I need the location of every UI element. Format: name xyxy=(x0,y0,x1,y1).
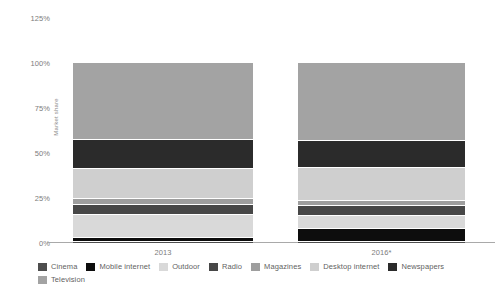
legend-item[interactable]: Radio xyxy=(209,262,242,271)
legend-item[interactable]: Cinema xyxy=(38,262,77,271)
bar-segment-newspapers[interactable] xyxy=(298,141,465,168)
y-axis-tick-label: 0% xyxy=(39,239,50,248)
bar-segment-newspapers[interactable] xyxy=(73,140,253,170)
legend-item[interactable]: Mobile internet xyxy=(86,262,150,271)
chart-container: Market share 0%25%50%75%100%125% 2013201… xyxy=(0,0,504,301)
legend-swatch-icon xyxy=(209,263,218,271)
bar-segment-outdoor[interactable] xyxy=(73,215,253,238)
legend-swatch-icon xyxy=(86,263,95,271)
bar-segment-television[interactable] xyxy=(73,63,253,140)
legend-item-label: Radio xyxy=(222,262,242,271)
y-axis-tick-label: 75% xyxy=(35,104,50,113)
plot-area: Market share 0%25%50%75%100%125% 2013201… xyxy=(55,18,495,243)
legend-item[interactable]: Desktop internet xyxy=(310,262,379,271)
legend-swatch-icon xyxy=(38,263,47,271)
bar-segment-television[interactable] xyxy=(298,63,465,141)
legend-item-label: Mobile internet xyxy=(99,262,150,271)
legend-swatch-icon xyxy=(310,263,319,271)
y-axis-zero-tick xyxy=(47,242,55,243)
stacked-bar[interactable] xyxy=(73,63,253,243)
bar-segment-cinema[interactable] xyxy=(298,242,465,243)
y-axis-title: Market share xyxy=(53,72,59,162)
bar-segment-desktop-internet[interactable] xyxy=(73,169,253,199)
legend-swatch-icon xyxy=(159,263,168,271)
legend-item-label: Outdoor xyxy=(172,262,200,271)
y-axis-tick-label: 50% xyxy=(35,149,50,158)
stacked-bar[interactable] xyxy=(298,63,465,243)
legend-item[interactable]: Newspapers xyxy=(388,262,444,271)
bar-segment-mobile-internet[interactable] xyxy=(298,229,465,243)
legend-swatch-icon xyxy=(251,263,260,271)
bar-segment-radio[interactable] xyxy=(298,206,465,216)
y-axis-tick-label: 100% xyxy=(30,59,50,68)
bar-segment-outdoor[interactable] xyxy=(298,216,465,229)
legend-item-label: Cinema xyxy=(51,262,77,271)
bar-segment-cinema[interactable] xyxy=(73,242,253,243)
legend-item-label: Desktop internet xyxy=(323,262,379,271)
legend-swatch-icon xyxy=(388,263,397,271)
x-axis-tick-label: 2013 xyxy=(73,248,253,257)
x-axis-tick-label: 2016* xyxy=(298,248,465,257)
legend-item[interactable]: Outdoor xyxy=(159,262,200,271)
legend-item[interactable]: Magazines xyxy=(251,262,301,271)
y-axis-tick-label: 125% xyxy=(30,14,50,23)
chart-legend: CinemaMobile internetOutdoorRadioMagazin… xyxy=(38,262,486,288)
bar-segment-desktop-internet[interactable] xyxy=(298,168,465,200)
legend-item[interactable]: Television xyxy=(38,275,85,284)
legend-item-label: Magazines xyxy=(264,262,301,271)
legend-item-label: Television xyxy=(51,275,85,284)
legend-swatch-icon xyxy=(38,276,47,284)
legend-item-label: Newspapers xyxy=(401,262,444,271)
bar-segment-radio[interactable] xyxy=(73,205,253,215)
y-axis-tick-label: 25% xyxy=(35,194,50,203)
